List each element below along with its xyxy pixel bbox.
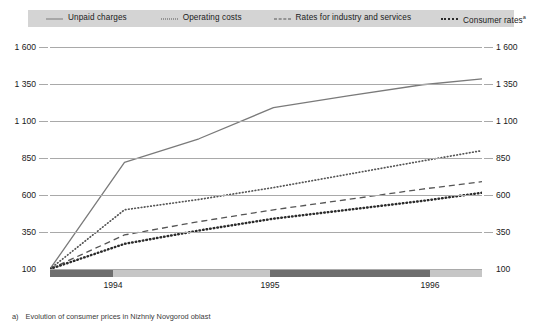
ytick-label-right-600: 600 [496,191,540,200]
gridline-350 [50,232,482,233]
ytick-label-left-1350: 1 350 [0,80,36,89]
tick-left-350 [39,232,48,233]
legend-item-rates-industry-services[interactable]: Rates for industry and services [274,10,412,27]
ytick-label-left-850: 850 [0,154,36,163]
series-line-operating-costs [50,151,482,269]
tick-left-1100 [39,121,48,122]
tick-left-1600 [39,47,48,48]
gridline-600 [50,195,482,196]
tick-right-1100 [484,121,493,122]
legend-item-unpaid-charges[interactable]: Unpaid charges [46,10,127,27]
series-line-consumer-rates [50,193,482,269]
tick-right-600 [484,195,493,196]
legend-item-consumer-rates[interactable]: Consumer ratesa [441,10,526,27]
x-axis-band-segment-light-2 [430,270,482,277]
tick-right-350 [484,232,493,233]
series-line-unpaid-charges [50,79,482,269]
gridline-1600 [50,47,482,48]
plot-area: 1 600 1 350 1 100 850 600 350 100 1 600 … [50,47,482,269]
footnote-superscript-a: a [523,14,526,20]
tick-right-1350 [484,84,493,85]
ytick-label-right-1350: 1 350 [496,80,540,89]
line-dotted-icon [161,14,178,23]
legend-label-operating-costs: Operating costs [183,14,242,22]
gridline-1100 [50,121,482,122]
ytick-label-left-1100: 1 100 [0,117,36,126]
legend-label-consumer-rates-text: Consumer rates [463,15,523,24]
ytick-label-right-1600: 1 600 [496,43,540,52]
legend-item-operating-costs[interactable]: Operating costs [161,10,242,27]
ytick-label-right-850: 850 [496,154,540,163]
ytick-label-left-100: 100 [0,265,36,274]
legend-label-unpaid-charges: Unpaid charges [68,14,127,22]
x-axis-band-segment-light-1 [113,270,270,277]
legend-label-consumer-rates: Consumer ratesa [463,13,526,25]
ytick-label-left-600: 600 [0,191,36,200]
gridline-850 [50,158,482,159]
xtick-label-1995: 1995 [260,281,279,290]
footnote-text: Evolution of consumer prices in Nizhniy … [26,312,211,321]
ytick-label-right-350: 350 [496,228,540,237]
xtick-label-1996: 1996 [420,281,439,290]
x-axis-band [50,270,482,277]
gridline-1350 [50,84,482,85]
xtick-label-1994: 1994 [103,281,122,290]
tick-left-1350 [39,84,48,85]
tick-right-1600 [484,47,493,48]
ytick-label-left-1600: 1 600 [0,43,36,52]
line-bold-dotted-icon [441,14,458,23]
ytick-label-right-100: 100 [496,265,540,274]
x-axis-band-segment-dark-2 [270,270,430,277]
ytick-label-left-350: 350 [0,228,36,237]
line-solid-icon [46,14,63,23]
tick-left-850 [39,158,48,159]
tick-right-850 [484,158,493,159]
ytick-label-right-1100: 1 100 [496,117,540,126]
line-dashed-icon [274,14,291,23]
tick-left-600 [39,195,48,196]
x-axis-band-segment-dark-1 [50,270,113,277]
footnote-marker: a) [12,312,19,321]
legend-label-rates-industry-services: Rates for industry and services [296,14,412,22]
chart-figure: Unpaid charges Operating costs Rates for… [0,0,541,324]
chart-legend: Unpaid charges Operating costs Rates for… [28,10,514,27]
chart-footnote: a)Evolution of consumer prices in Nizhni… [12,312,210,321]
